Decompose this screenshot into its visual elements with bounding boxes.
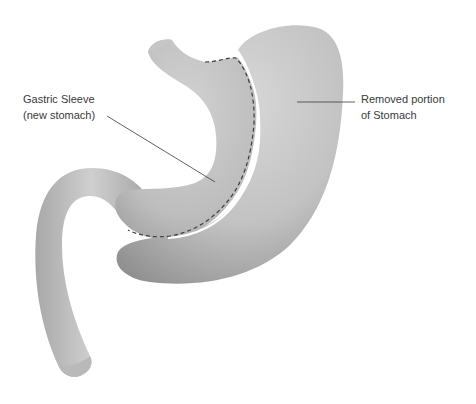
label-gastric-sleeve: Gastric Sleeve (new stomach) (23, 91, 95, 123)
label-gastric-sleeve-line2: (new stomach) (23, 107, 95, 123)
leader-line-sleeve (107, 116, 215, 182)
label-removed-portion-line2: of Stomach (361, 107, 445, 123)
label-removed-portion: Removed portion of Stomach (361, 91, 445, 123)
stomach-diagram (0, 0, 476, 404)
label-removed-portion-line1: Removed portion (361, 91, 445, 107)
label-gastric-sleeve-line1: Gastric Sleeve (23, 91, 95, 107)
